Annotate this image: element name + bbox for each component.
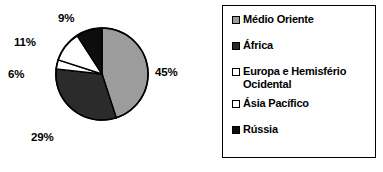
legend-item-medio-oriente: Médio Oriente: [223, 13, 375, 26]
legend-label-africa: África: [243, 39, 273, 52]
legend-label-russia: Rússia: [243, 123, 278, 136]
legend-swatch-icon: [232, 16, 240, 24]
legend-item-africa: África: [223, 39, 375, 52]
legend-item-asia-pacifico: Ásia Pacífico: [223, 97, 375, 110]
legend-label-medio-oriente: Médio Oriente: [243, 13, 314, 26]
legend-swatch-icon: [232, 100, 240, 108]
pie-value-label-russia: 9%: [58, 12, 74, 24]
pie-value-label-asia-pacifico: 11%: [14, 36, 36, 48]
pie-value-label-europa: 6%: [8, 68, 24, 80]
pie-chart-figure: 45% 29% 6% 11% 9% Médio Oriente África E…: [0, 0, 383, 172]
legend-label-asia-pacifico: Ásia Pacífico: [243, 97, 309, 110]
legend-item-europa-hemisferio-ocidental: Europa e Hemisfério Ocidental: [223, 65, 375, 91]
legend-label-europa-hemisferio-ocidental: Europa e Hemisfério Ocidental: [243, 65, 371, 91]
legend-list: Médio Oriente África Europa e Hemisfério…: [223, 6, 375, 136]
legend-swatch-icon: [232, 126, 240, 134]
pie-value-label-medio-oriente: 45%: [155, 66, 177, 78]
pie-chart-graphic: [0, 0, 215, 172]
legend-swatch-icon: [232, 42, 240, 50]
legend-item-russia: Rússia: [223, 123, 375, 136]
pie-chart-area: 45% 29% 6% 11% 9%: [0, 0, 215, 172]
chart-legend: Médio Oriente África Europa e Hemisfério…: [222, 5, 376, 158]
pie-value-label-africa: 29%: [31, 131, 53, 143]
legend-swatch-icon: [232, 68, 240, 76]
